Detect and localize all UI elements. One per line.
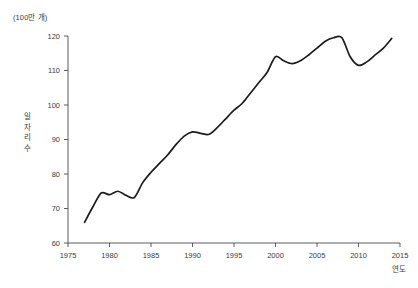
- x-tick-label: 1985: [143, 251, 160, 260]
- x-axis-ticks: 197519801985199019952000200520102015: [60, 243, 409, 260]
- y-tick-label: 120: [47, 32, 60, 41]
- x-tick-label: 2000: [267, 251, 284, 260]
- y-tick-label: 100: [47, 101, 60, 110]
- y-axis-ticks: 12011010090807060: [47, 32, 68, 248]
- line-chart-svg: 12011010090807060 1975198019851990199520…: [0, 0, 418, 288]
- x-tick-label: 1990: [184, 251, 201, 260]
- y-tick-label: 70: [52, 204, 60, 213]
- data-series-line: [85, 36, 392, 222]
- x-tick-label: 1975: [60, 251, 77, 260]
- chart-container: (100만 개) 일자리 수 연도 12011010090807060 1975…: [0, 0, 418, 288]
- y-tick-label: 110: [48, 66, 60, 75]
- x-tick-label: 1980: [101, 251, 118, 260]
- x-tick-label: 2015: [392, 251, 409, 260]
- y-tick-label: 80: [52, 170, 60, 179]
- x-tick-label: 1995: [226, 251, 243, 260]
- plot-area: 12011010090807060 1975198019851990199520…: [0, 0, 418, 288]
- y-tick-label: 60: [52, 239, 60, 248]
- x-tick-label: 2005: [309, 251, 326, 260]
- y-tick-label: 90: [52, 135, 60, 144]
- x-tick-label: 2010: [350, 251, 367, 260]
